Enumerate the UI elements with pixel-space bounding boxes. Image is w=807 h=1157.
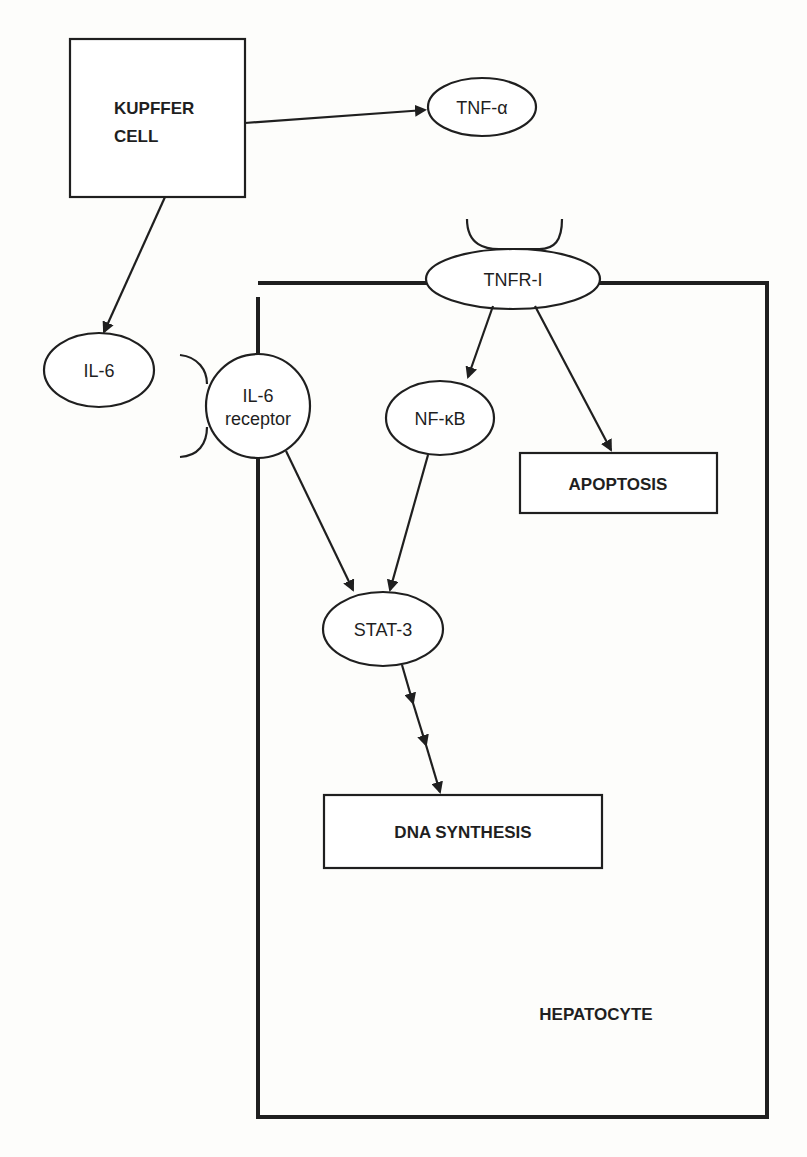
edge-kupffer-to-tnf xyxy=(245,110,425,123)
il6-receptor-label-line2: receptor xyxy=(225,409,291,429)
hepatocyte-label: HEPATOCYTE xyxy=(539,1005,652,1024)
stat3-node: STAT-3 xyxy=(323,592,443,666)
il6-label: IL-6 xyxy=(83,361,114,381)
tnfr1-label: TNFR-I xyxy=(484,270,543,290)
edge-tnfr-to-nfkb xyxy=(468,306,493,377)
dna-synthesis-node: DNA SYNTHESIS xyxy=(324,795,602,868)
il6-node: IL-6 xyxy=(44,333,154,407)
pathway-diagram: KUPFFER CELL TNF-α TNFR-I IL-6 IL-6 rece… xyxy=(0,0,807,1157)
dna-synthesis-label: DNA SYNTHESIS xyxy=(394,823,531,842)
il6-receptor-cup-bottom xyxy=(180,427,207,457)
edge-il6r-to-stat3 xyxy=(286,451,353,590)
tnf-alpha-label: TNF-α xyxy=(456,98,507,118)
apoptosis-label: APOPTOSIS xyxy=(569,475,668,494)
tnfr-binding-cup xyxy=(467,219,562,249)
hepatocyte-membrane xyxy=(258,283,767,1117)
stat3-label: STAT-3 xyxy=(354,620,412,640)
il6-receptor-node: IL-6 receptor xyxy=(206,354,310,458)
apoptosis-node: APOPTOSIS xyxy=(520,453,717,513)
kupffer-cell-node: KUPFFER CELL xyxy=(70,39,245,197)
kupffer-cell-label-line2: CELL xyxy=(114,127,158,146)
edge-stat3-to-dna-multistep xyxy=(402,665,440,792)
tnf-alpha-node: TNF-α xyxy=(428,78,536,136)
tnfr1-node: TNFR-I xyxy=(426,249,600,309)
il6-receptor-cup-top xyxy=(180,355,207,384)
nfkb-node: NF-κB xyxy=(386,381,494,455)
il6-receptor-label-line1: IL-6 xyxy=(242,386,273,406)
edge-kupffer-to-il6 xyxy=(104,197,165,332)
nfkb-label: NF-κB xyxy=(415,409,466,429)
kupffer-cell-label-line1: KUPFFER xyxy=(114,99,194,118)
edge-nfkb-to-stat3 xyxy=(390,455,428,590)
edge-tnfr-to-apoptosis xyxy=(535,306,611,450)
